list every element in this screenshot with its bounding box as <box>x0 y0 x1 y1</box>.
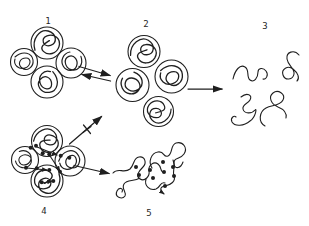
stage1-compact-oligomer-icon <box>11 27 87 98</box>
cross-out-icon <box>83 127 91 133</box>
crosslink-dot <box>29 146 33 150</box>
crosslink-dot <box>134 165 138 169</box>
coil-scribble <box>62 52 82 70</box>
figure-canvas: 1 2 3 4 5 <box>0 0 309 226</box>
coil-scribble <box>15 53 33 69</box>
crosslink-dot <box>59 154 63 158</box>
crosslink-dot <box>24 166 28 170</box>
aggregate-chain <box>116 178 140 198</box>
chain-squiggle <box>260 92 286 126</box>
crosslink-dot <box>172 174 176 178</box>
crosslink-dot <box>34 144 38 148</box>
coil-scribble <box>56 147 83 173</box>
aggregate-chain <box>150 143 185 168</box>
crosslink-dot <box>67 156 71 160</box>
crosslink-dot <box>163 184 167 188</box>
crosslink-dot <box>58 170 62 174</box>
crosslink-dot <box>162 170 166 174</box>
crosslink-dot <box>51 179 55 183</box>
stage5-aggregate-network-icon <box>113 143 185 198</box>
label-stage-3: 3 <box>262 21 267 31</box>
blocked-arrow-4 <box>70 117 102 145</box>
stage4-crosslinked-oligomer-icon <box>12 125 86 197</box>
chain-squiggle <box>233 66 267 81</box>
crosslink-dot <box>161 160 165 164</box>
crosslink-dot <box>171 165 175 169</box>
crosslink-dot <box>41 151 45 155</box>
chain-squiggle <box>283 52 299 81</box>
stage3-unfolded-chains-icon <box>231 52 299 126</box>
reverse-arrow <box>82 75 111 82</box>
chain-squiggle <box>231 94 255 125</box>
label-stage-5: 5 <box>146 208 151 218</box>
crosslink-dot <box>40 180 44 184</box>
crosslink-dot <box>47 152 51 156</box>
crosslink-dot <box>148 168 152 172</box>
equilibrium-arrow-1-2 <box>79 67 111 82</box>
crosslink-dot <box>35 166 39 170</box>
crosslink-dot <box>47 168 51 172</box>
coil-scribble <box>160 66 182 86</box>
coil-scribble <box>129 36 159 65</box>
folding-aggregation-diagram: 1 2 3 4 5 <box>0 0 309 226</box>
coil-scribble <box>16 151 32 168</box>
diagram-ink-layer: 1 2 3 4 5 <box>11 16 300 218</box>
label-stage-4: 4 <box>41 206 46 216</box>
aggregate-chain <box>146 179 165 189</box>
coil-scribble <box>38 71 57 92</box>
stage2-dissociated-globules-icon <box>116 36 188 127</box>
label-stage-2: 2 <box>143 19 148 29</box>
coil-scribble <box>34 31 59 54</box>
crosslink-dot <box>137 173 141 177</box>
crosslink-dot <box>151 176 155 180</box>
label-stage-1: 1 <box>45 16 50 26</box>
